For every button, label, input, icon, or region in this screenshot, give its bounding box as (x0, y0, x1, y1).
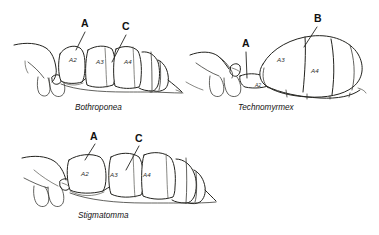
segment-a6-p1 (154, 60, 168, 91)
sting-p3 (205, 190, 216, 201)
segment-a2-p1 (59, 46, 85, 83)
segment-a3-p1 (86, 46, 116, 87)
taxon-caption-technomyrmex: Technomyrmex (238, 103, 295, 112)
segment-a4-p1 (114, 47, 142, 89)
sting-p1 (168, 80, 182, 92)
leg-p2-a (209, 76, 223, 97)
leg-p1-a (37, 77, 50, 96)
mesosoma-lower-p2 (196, 63, 219, 76)
taxon-caption-stigmatomma: Stigmatomma (78, 211, 129, 220)
segment-label-a2-p1: A2 (68, 56, 77, 63)
panel-bothroponera: A C A2 A3 A4 Bothroponea (14, 17, 183, 112)
sting-lower-p1 (150, 92, 182, 93)
leader-line-a-p1 (76, 32, 85, 50)
pointer-label-a-p1: A (81, 17, 89, 29)
pointer-label-c-p1: C (122, 20, 130, 32)
mesosoma-outline-p1 (14, 43, 56, 82)
segment-a5-p1 (139, 52, 160, 91)
mesosoma-fine-p3 (34, 170, 58, 186)
mesosoma-ventral-p1 (28, 62, 44, 78)
pointer-label-b-p2: B (314, 12, 322, 24)
petiole-p2 (230, 64, 240, 77)
panel-technomyrmex: A B A2 A3 A4 Technomyrmex (186, 12, 366, 112)
leg-spur-p2 (186, 82, 203, 90)
segment-label-a4-p3: A4 (142, 171, 151, 178)
panel-stigmatomma: A C A2 A3 A4 Stigmatomma (22, 130, 216, 220)
segment-divider-a5-a6-p3 (186, 158, 187, 203)
pointer-label-a-p3: A (90, 130, 98, 142)
segment-label-a2-p3: A2 (80, 170, 89, 177)
segment-label-a2-p2: A2 (254, 82, 261, 88)
petiole-detail-p2 (232, 68, 240, 72)
segment-divider-a5-a6-p1 (151, 52, 152, 91)
mesosoma-ventral-p3 (24, 178, 48, 188)
segment-label-a3-p1: A3 (95, 58, 104, 65)
taxon-caption-bothroponera: Bothroponea (75, 103, 122, 112)
segment-label-a4-p1: A4 (123, 58, 132, 65)
segment-label-a4-p2: A4 (310, 67, 319, 74)
segment-label-a3-p3: A3 (109, 171, 118, 178)
leg-spur-p1 (25, 61, 28, 73)
sting-lower-p3 (186, 202, 216, 203)
sternite-div-4-p2 (349, 93, 350, 97)
ant-morphology-figure: A C A2 A3 A4 Bothroponea (0, 0, 379, 235)
pointer-label-a-p2: A (242, 37, 250, 49)
pointer-label-c-p3: C (135, 132, 143, 144)
segment-label-a3-p2: A3 (276, 56, 285, 63)
leg-p2-b (224, 77, 241, 97)
leg-p3-a (34, 186, 49, 207)
figure-canvas: A C A2 A3 A4 Bothroponea (0, 0, 379, 235)
mesosoma-outline-p3 (22, 156, 66, 180)
